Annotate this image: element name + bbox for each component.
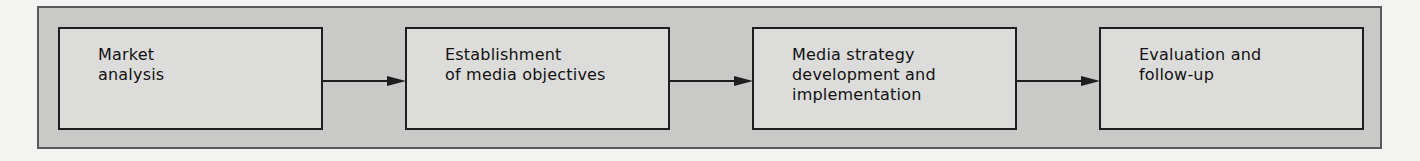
arrow-market-to-objectives <box>321 74 406 88</box>
step-label: Market analysis <box>98 45 164 85</box>
arrow-strategy-to-evaluation <box>1015 74 1100 88</box>
arrow-objectives-to-strategy <box>668 74 753 88</box>
step-media-strategy: Media strategy development and implement… <box>752 27 1017 130</box>
arrow-right-icon <box>668 74 753 88</box>
step-evaluation: Evaluation and follow-up <box>1099 27 1364 130</box>
arrow-right-icon <box>1015 74 1100 88</box>
step-market-analysis: Market analysis <box>58 27 323 130</box>
step-label: Media strategy development and implement… <box>792 45 936 105</box>
arrow-right-icon <box>321 74 406 88</box>
step-label: Establishment of media objectives <box>445 45 606 85</box>
step-media-objectives: Establishment of media objectives <box>405 27 670 130</box>
step-label: Evaluation and follow-up <box>1139 45 1261 85</box>
